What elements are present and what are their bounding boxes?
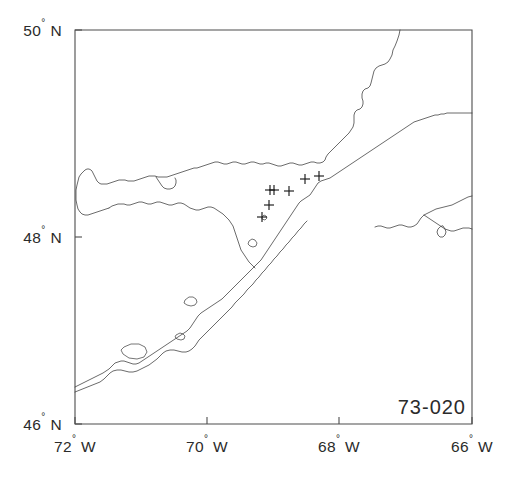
station-marker xyxy=(314,171,324,181)
island-verte xyxy=(175,333,185,340)
island-bic xyxy=(184,297,197,306)
north-shore-inner xyxy=(109,202,255,268)
map-canvas: 50° N 48° N 46° N 72° W 70° W 68° W 66° … xyxy=(0,0,516,485)
frame-rect xyxy=(75,30,472,424)
station-markers xyxy=(257,171,324,222)
xtick-label-66w: 66° W xyxy=(451,433,493,456)
xtick-label-68w: 68° W xyxy=(318,433,360,456)
station-marker xyxy=(264,200,274,210)
station-marker xyxy=(300,174,310,184)
axis-tick-labels: 50° N 48° N 46° N 72° W 70° W 68° W 66° … xyxy=(23,17,493,456)
ytick-label-48n: 48° N xyxy=(23,224,62,247)
gaspe-bay-inner xyxy=(424,215,472,231)
north-shore-coastline xyxy=(76,30,400,215)
plot-frame xyxy=(75,30,472,424)
coastlines xyxy=(75,30,472,392)
xtick-label-70w: 70° W xyxy=(186,433,228,456)
saguenay-inlet xyxy=(156,177,176,189)
south-shore-coastline xyxy=(75,113,472,387)
station-marker xyxy=(257,212,267,222)
estuary-south-bank xyxy=(75,221,307,392)
ytick-label-46n: 46° N xyxy=(23,411,62,434)
station-marker xyxy=(284,186,294,196)
gaspe-bay-coastline xyxy=(375,196,472,228)
station-location-map: 50° N 48° N 46° N 72° W 70° W 68° W 66° … xyxy=(0,0,516,485)
xtick-label-72w: 72° W xyxy=(54,433,96,456)
island-anticosti-small xyxy=(248,239,257,247)
axis-ticks xyxy=(75,30,472,424)
island-aux-coudres xyxy=(121,344,147,359)
islands xyxy=(121,215,267,359)
gaspe-bay-spur xyxy=(437,226,446,237)
cruise-id-label: 73-020 xyxy=(398,396,466,418)
ytick-label-50n: 50° N xyxy=(23,17,62,40)
